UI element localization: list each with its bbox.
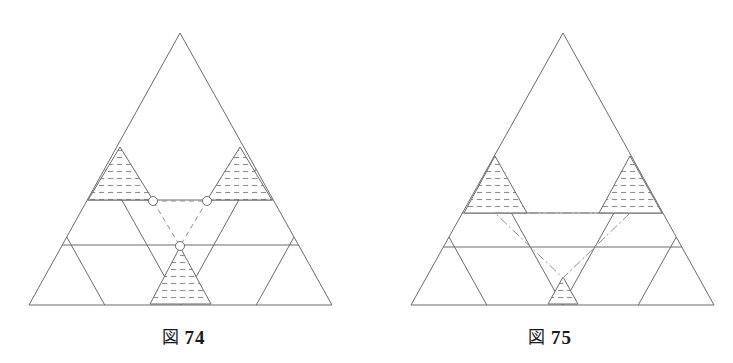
figure-74-drawing xyxy=(0,0,367,363)
bottom-center-hatch xyxy=(548,277,578,304)
figure-75-grid xyxy=(411,33,714,305)
figure-74-caption: 図74 xyxy=(0,324,367,349)
figure-74-caption-number: 74 xyxy=(185,327,206,348)
inverted-dashed-triangle xyxy=(153,201,207,246)
vertex-marker-circle-0 xyxy=(149,197,158,206)
figure-panel-74: 図74 xyxy=(0,0,367,363)
figure-74-vertex-markers xyxy=(149,197,212,251)
bottom-center-hatch xyxy=(150,247,211,304)
left-hatch xyxy=(464,156,527,213)
upper-right-hatch xyxy=(207,147,272,200)
figure-74-hatched-regions xyxy=(88,147,272,304)
figure-75-caption-kanji: 図 xyxy=(528,327,546,347)
upper-left-hatch xyxy=(88,147,153,200)
inverted-dashdot-triangle xyxy=(495,213,630,278)
figure-74-dashed-triangle xyxy=(153,201,207,246)
figure-page: 図74 図75 xyxy=(0,0,733,363)
figure-75-drawing xyxy=(367,0,733,363)
figure-74-caption-kanji: 図 xyxy=(162,327,180,347)
figure-75-hatched-regions xyxy=(464,156,662,304)
figure-75-caption: 図75 xyxy=(367,324,733,349)
figure-panel-75: 図75 xyxy=(367,0,733,363)
vertex-marker-circle-2 xyxy=(176,242,185,251)
figure-75-caption-number: 75 xyxy=(551,327,572,348)
diagonal-right-leaning-row3 xyxy=(67,237,105,305)
vertex-marker-circle-1 xyxy=(203,197,212,206)
right-hatch xyxy=(599,156,662,213)
figure-75-dashed-triangle xyxy=(495,213,630,278)
diagonal-left-leaning-row3 xyxy=(256,237,294,305)
